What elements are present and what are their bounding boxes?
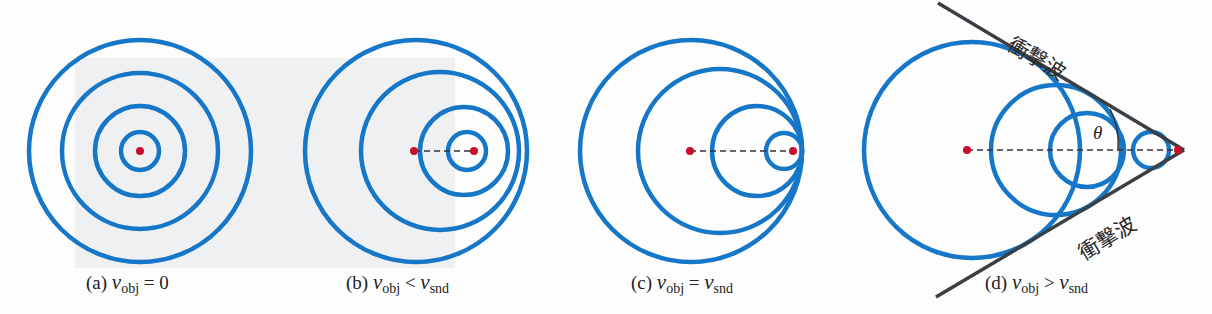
caption-c: (c) vobj = vsnd <box>631 270 733 297</box>
angle-theta-label: θ <box>1093 122 1102 144</box>
caption-d: (d) vobj > vsnd <box>985 270 1088 297</box>
background-photo-shade <box>75 58 455 268</box>
source-dot <box>789 147 797 155</box>
doppler-shockwave-figure: 衝撃波 衝撃波 θ (a) vobj = 0 (b) vobj < vsnd (… <box>0 0 1212 314</box>
source-dot <box>686 147 694 155</box>
source-dot <box>1174 146 1182 154</box>
source-dot <box>136 147 144 155</box>
source-dot <box>410 147 418 155</box>
source-dot <box>470 147 478 155</box>
caption-a: (a) vobj = 0 <box>86 270 169 297</box>
caption-b: (b) vobj < vsnd <box>346 270 449 297</box>
source-dot <box>963 146 971 154</box>
